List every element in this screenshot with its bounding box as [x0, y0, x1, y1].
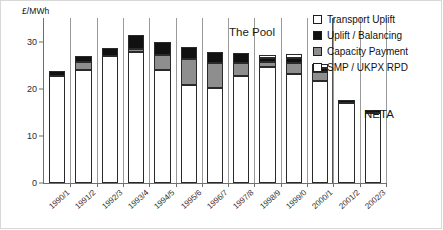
bar-1999-0	[286, 18, 302, 183]
bar-segment-smp-ukpx-rpd	[338, 103, 354, 183]
bar-segment-uplift-balancing	[181, 47, 197, 59]
bar-segment-capacity-payment	[207, 63, 223, 88]
category-gridline	[123, 18, 124, 183]
legend-item-smp-ukpx-rpd[interactable]: SMP / UKPX RPD	[313, 60, 408, 75]
bar-segment-uplift-balancing	[75, 56, 91, 62]
y-axis-tick-label: 20	[27, 84, 37, 94]
x-axis-line	[43, 183, 387, 184]
x-axis-category-label: 1990/1	[47, 188, 71, 211]
x-axis-tick-mark	[70, 183, 71, 187]
x-axis-category-label: 1995/6	[179, 188, 203, 211]
legend-label: Transport Uplift	[327, 14, 395, 25]
legend-swatch-icon	[313, 47, 322, 56]
x-axis-category-label: 1993/4	[126, 188, 150, 211]
x-axis-tick-mark	[202, 183, 203, 187]
bar-segment-uplift-balancing	[338, 100, 354, 103]
bar-1996-7	[207, 18, 223, 183]
x-axis-tick-mark	[333, 183, 334, 187]
y-axis-tick-label: 10	[27, 131, 37, 141]
y-axis-tick-label: 0	[32, 178, 37, 188]
x-axis-category-label: 1997/8	[232, 188, 256, 211]
x-axis-tick-mark	[254, 183, 255, 187]
category-gridline	[202, 18, 203, 183]
y-axis-tick-mark	[39, 135, 43, 136]
bar-1994-5	[154, 18, 170, 183]
category-gridline	[149, 18, 150, 183]
bar-segment-uplift-balancing	[49, 71, 65, 77]
x-axis-tick-mark	[176, 183, 177, 187]
bar-segment-smp-ukpx-rpd	[102, 56, 118, 183]
x-axis-category-label: 1999/0	[284, 188, 308, 211]
bar-1995-6	[181, 18, 197, 183]
bar-segment-uplift-balancing	[154, 42, 170, 56]
x-axis-tick-mark	[307, 183, 308, 187]
legend-label: SMP / UKPX RPD	[327, 62, 408, 73]
bar-segment-uplift-balancing	[128, 35, 144, 48]
bar-segment-transport-uplift	[286, 54, 302, 58]
y-axis-tick-mark	[39, 183, 43, 184]
category-gridline	[97, 18, 98, 183]
x-axis-category-label: 1996/7	[205, 188, 229, 211]
category-gridline	[254, 18, 255, 183]
bar-segment-uplift-balancing	[286, 58, 302, 63]
x-axis-tick-mark	[386, 183, 387, 187]
chart-legend: Transport UpliftUplift / BalancingCapaci…	[313, 12, 408, 76]
x-axis-tick-mark	[149, 183, 150, 187]
category-gridline	[281, 18, 282, 183]
bar-segment-uplift-balancing	[207, 52, 223, 62]
bar-segment-capacity-payment	[154, 55, 170, 70]
bar-segment-capacity-payment	[233, 63, 249, 76]
bar-1993-4	[128, 18, 144, 183]
legend-label: Capacity Payment	[327, 46, 408, 57]
era-label-neta: NETA	[364, 108, 394, 120]
bar-1990-1	[49, 18, 65, 183]
bar-segment-capacity-payment	[259, 62, 275, 67]
x-axis-category-label: 2002/3	[363, 188, 387, 211]
category-gridline	[70, 18, 71, 183]
bar-segment-smp-ukpx-rpd	[128, 52, 144, 183]
bar-segment-uplift-balancing	[259, 58, 275, 62]
x-axis-tick-mark	[97, 183, 98, 187]
bar-segment-uplift-balancing	[102, 48, 118, 56]
bar-segment-smp-ukpx-rpd	[365, 113, 381, 183]
category-gridline	[228, 18, 229, 183]
bar-segment-smp-ukpx-rpd	[207, 88, 223, 183]
legend-item-transport-uplift[interactable]: Transport Uplift	[313, 12, 408, 27]
y-axis-tick-mark	[39, 88, 43, 89]
bar-segment-smp-ukpx-rpd	[154, 70, 170, 183]
y-axis-tick-labels: 0102030	[0, 0, 43, 201]
bar-segment-capacity-payment	[286, 63, 302, 74]
x-axis-category-label: 1991/2	[74, 188, 98, 211]
x-axis-category-label: 2001/2	[337, 188, 361, 211]
bar-segment-smp-ukpx-rpd	[49, 76, 65, 183]
bar-1992-3	[102, 18, 118, 183]
legend-item-capacity-payment[interactable]: Capacity Payment	[313, 44, 408, 59]
x-axis-tick-mark	[360, 183, 361, 187]
y-axis-tick-mark	[39, 41, 43, 42]
bar-segment-capacity-payment	[181, 59, 197, 85]
bar-segment-uplift-balancing	[233, 53, 249, 63]
bar-segment-capacity-payment	[75, 62, 91, 70]
bar-1998-9	[259, 18, 275, 183]
x-axis-tick-mark	[123, 183, 124, 187]
legend-swatch-icon	[313, 63, 322, 72]
legend-item-uplift-balancing[interactable]: Uplift / Balancing	[313, 28, 408, 43]
bar-segment-smp-ukpx-rpd	[75, 70, 91, 183]
legend-label: Uplift / Balancing	[327, 30, 402, 41]
x-axis-category-label: 1992/3	[100, 188, 124, 211]
x-axis-category-label: 1994/5	[153, 188, 177, 211]
bar-segment-smp-ukpx-rpd	[286, 74, 302, 183]
bar-1991-2	[75, 18, 91, 183]
chart-container: £/MWh 0102030 The Pool NETA Transport Up…	[0, 0, 443, 230]
bar-segment-transport-uplift	[259, 55, 275, 58]
era-label-pool: The Pool	[229, 26, 275, 38]
category-gridline	[307, 18, 308, 183]
x-axis-tick-mark	[281, 183, 282, 187]
bar-segment-smp-ukpx-rpd	[181, 85, 197, 183]
bar-segment-capacity-payment	[128, 49, 144, 52]
bar-segment-smp-ukpx-rpd	[233, 76, 249, 183]
x-axis-tick-mark	[228, 183, 229, 187]
y-axis-tick-label: 30	[27, 37, 37, 47]
x-axis-category-label: 1998/9	[258, 188, 282, 211]
x-axis-category-label: 2000/1	[311, 188, 335, 211]
